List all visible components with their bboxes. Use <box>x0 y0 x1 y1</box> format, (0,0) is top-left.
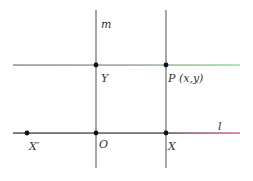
point-o <box>94 131 99 136</box>
label-y: Y <box>101 72 110 85</box>
coordinate-diagram: m Y P (x,y) X′ O X l <box>0 0 253 181</box>
point-x-prime <box>25 131 30 136</box>
label-l: l <box>218 120 222 133</box>
point-p <box>164 63 169 68</box>
line-l <box>13 132 240 133</box>
line-through-p-horizontal <box>13 64 240 65</box>
label-x: X <box>167 140 177 153</box>
point-y <box>94 63 99 68</box>
label-x-prime: X′ <box>28 140 40 153</box>
label-p: P (x,y) <box>167 72 203 85</box>
point-x <box>164 131 169 136</box>
label-o: O <box>99 138 108 151</box>
label-m: m <box>101 18 111 31</box>
